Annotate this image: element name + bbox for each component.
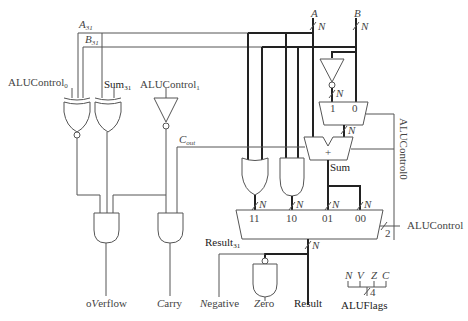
label-result: Result [294, 297, 322, 309]
xnor-bubble [74, 132, 80, 138]
bus-result-to-zero [265, 254, 308, 258]
or-gate [242, 158, 268, 195]
label-alucontrol1: ALUControl1 [140, 78, 200, 92]
label-alucontrol0: ALUControl0 [8, 76, 68, 90]
and-gate-overflow [94, 213, 119, 243]
label-result-width: N [311, 239, 320, 251]
label-zero: Zero [254, 297, 275, 309]
label-11-width: N [258, 198, 267, 210]
not-gate-bubble [163, 123, 169, 129]
label-bnot-width: N [335, 87, 344, 99]
label-alucontrol-width: 2 [385, 227, 391, 239]
bus-b-to-inverter [332, 52, 356, 58]
label-b-width: N [360, 20, 369, 32]
flag-v: V [357, 269, 365, 281]
flag-z: Z [371, 269, 378, 281]
mux-result-in-11: 11 [249, 212, 260, 224]
alu-schematic: A B N N A31 B31 N 1 0 ALUControl0 N + Co… [0, 0, 468, 321]
mux-result-in-00: 00 [355, 212, 367, 224]
and-gate [280, 158, 304, 196]
adder-plus: + [325, 146, 331, 158]
label-alucontrol: ALUControl [407, 219, 463, 231]
xnor-back-curve [64, 98, 90, 100]
not-gate-b [320, 59, 344, 82]
label-cout: Cout [179, 133, 196, 147]
mux-result-in-10: 10 [286, 212, 298, 224]
label-sum31: Sum31 [104, 78, 132, 92]
label-a-width: N [317, 20, 326, 32]
label-carry: Carry [157, 297, 183, 309]
mux-result-in-01: 01 [322, 212, 333, 224]
label-adder-width: N [347, 124, 356, 136]
mux-b-in0: 0 [352, 102, 358, 114]
label-alucontrol0-vertical: ALUControl0 [398, 118, 410, 180]
label-aluflags: ALUFlags [341, 299, 387, 311]
inverter-bubble [329, 82, 335, 88]
xor-back-curve [95, 98, 121, 100]
label-negative: Negative [199, 297, 239, 309]
label-00-width: N [363, 198, 372, 210]
not-gate-alucontrol1 [154, 98, 178, 122]
label-overflow: oVerflow [86, 297, 127, 309]
label-b31: B31 [85, 33, 99, 47]
label-sum: Sum [330, 161, 351, 173]
mux-b-in1: 1 [330, 102, 336, 114]
zero-gate-bubble [262, 258, 268, 264]
xnor-gate [64, 102, 90, 132]
label-01-width: N [331, 198, 340, 210]
xor-gate [95, 102, 121, 132]
flag-n: N [344, 269, 353, 281]
flags-bundle-bracket [348, 281, 386, 287]
flag-c: C [382, 269, 390, 281]
label-result31: Result31 [205, 236, 241, 250]
wire-b31 [83, 47, 262, 98]
wire-not-to-overflow [113, 195, 166, 213]
zero-gate [253, 264, 277, 297]
label-a31: A31 [78, 18, 93, 32]
label-10-width: N [295, 198, 304, 210]
and-gate-carry [158, 213, 183, 243]
label-flags-width: 4 [370, 286, 376, 298]
mux-b [319, 102, 368, 125]
wire-xnor-out [77, 138, 100, 213]
label-b: B [354, 7, 361, 19]
label-a: A [310, 7, 318, 19]
